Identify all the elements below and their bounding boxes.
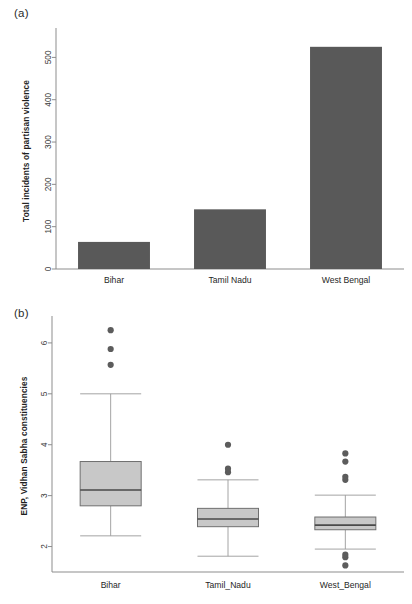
panel-a-category-label: West Bengal: [322, 275, 371, 285]
panel-b-label: (b): [14, 307, 29, 319]
panel-b-y-tick-label: 3: [39, 493, 49, 498]
panel-a-y-tick-label: 200: [43, 177, 53, 191]
panel-b-outlier-point: [342, 552, 348, 558]
panel-b-outlier-point: [225, 442, 231, 448]
panel-b-box: [315, 517, 376, 530]
panel-b-outlier-point: [108, 362, 114, 368]
panel-a-category-label: Bihar: [104, 275, 124, 285]
panel-b-outlier-point: [108, 346, 114, 352]
panel-b-y-tick-label: 5: [39, 391, 49, 396]
panel-b-box-group: [80, 327, 141, 536]
panel-b-box-plot: (b) ENP, Vidhan Sabha constituencies 234…: [0, 300, 412, 604]
panel-a-bar-chart: (a) Total incidents of partisan violence…: [0, 0, 412, 302]
panel-a-y-tick-label: 300: [43, 135, 53, 149]
panel-b-outlier-point: [342, 458, 348, 464]
panel-b-category-label: West_Bengal: [320, 580, 371, 590]
panel-b-category-label: Bihar: [101, 580, 121, 590]
panel-b-outlier-point: [342, 474, 348, 480]
panel-b-y-tick-label: 6: [39, 340, 49, 345]
panel-b-y-tick-label: 4: [39, 442, 49, 447]
panel-b-plot-area: 23456BiharTamil_NaduWest_Bengal: [0, 300, 412, 604]
panel-a-label: (a): [14, 7, 29, 19]
panel-a-bar: [310, 47, 382, 269]
panel-b-box: [197, 508, 258, 526]
panel-a-bar: [194, 209, 266, 269]
panel-b-outlier-point: [342, 562, 348, 568]
panel-a-bar: [78, 242, 150, 269]
panel-b-box: [80, 462, 141, 506]
panel-b-box-group: [315, 450, 376, 568]
panel-b-category-label: Tamil_Nadu: [205, 580, 251, 590]
panel-b-y-tick-label: 2: [39, 544, 49, 549]
panel-a-y-tick-label: 400: [43, 92, 53, 106]
panel-a-plot-area: 0100200300400500BiharTamil NaduWest Beng…: [0, 0, 412, 302]
panel-b-y-axis-title: ENP, Vidhan Sabha constituencies: [19, 377, 29, 516]
panel-a-y-axis-title: Total incidents of partisan violence: [21, 80, 31, 222]
figure-two-panel: (a) Total incidents of partisan violence…: [0, 0, 412, 604]
panel-a-y-tick-label: 100: [43, 219, 53, 233]
panel-b-outlier-point: [108, 327, 114, 333]
panel-b-outlier-point: [225, 466, 231, 472]
panel-b-outlier-point: [342, 450, 348, 456]
panel-a-y-tick-label: 500: [43, 50, 53, 64]
panel-a-category-label: Tamil Nadu: [209, 275, 252, 285]
panel-a-y-tick-label: 0: [43, 266, 53, 271]
panel-b-box-group: [197, 442, 258, 557]
